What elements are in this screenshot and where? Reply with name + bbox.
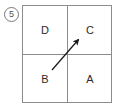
item-number-badge: 5	[4, 7, 19, 22]
quadrant-top-left: D	[23, 6, 67, 54]
quadrant-diagram-figure: 5 D C B A	[0, 0, 118, 111]
quadrant-label-d: D	[41, 25, 49, 36]
quadrant-label-b: B	[41, 74, 48, 85]
quadrant-top-right: C	[68, 6, 112, 54]
quadrant-bottom-right: A	[68, 55, 112, 103]
quadrant-square: D C B A	[22, 5, 112, 103]
quadrant-label-a: A	[86, 74, 93, 85]
quadrant-label-c: C	[86, 25, 94, 36]
quadrant-bottom-left: B	[23, 55, 67, 103]
